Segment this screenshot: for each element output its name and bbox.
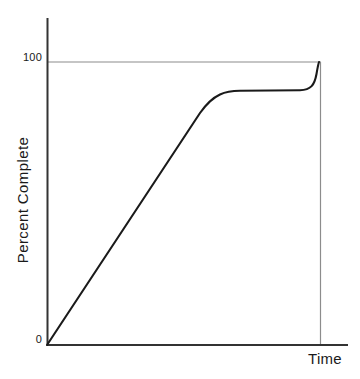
x-axis-title: Time [308,350,342,367]
plot-area [0,0,360,379]
progress-curve [47,62,319,345]
chart-canvas: 100 0 Time Percent Complete [0,0,360,379]
y-axis-title: Percent Complete [14,80,34,320]
y-tick-label-0: 0 [2,333,42,345]
y-tick-label-100: 100 [2,51,42,63]
